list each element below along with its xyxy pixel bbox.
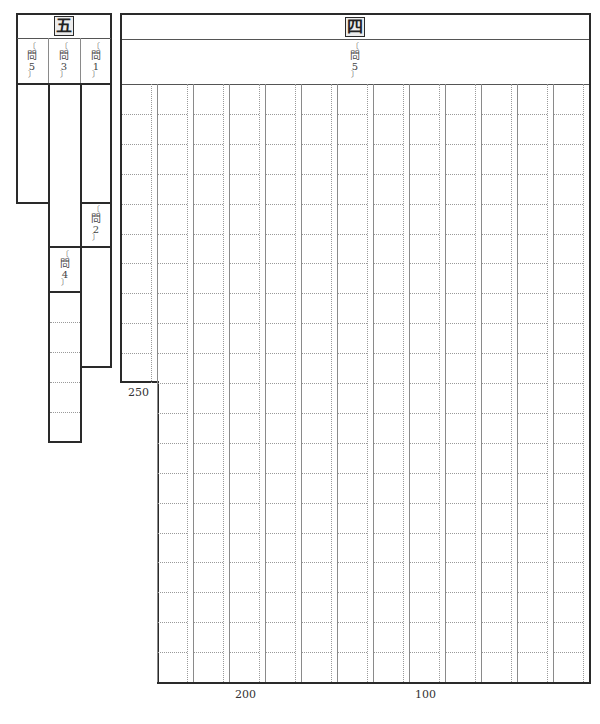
grid-row-line — [554, 293, 583, 294]
grid-row-line — [482, 204, 511, 205]
grid-row-line — [374, 562, 403, 563]
grid-row-line — [446, 562, 475, 563]
grid-row-line — [338, 204, 367, 205]
question-label-q1: 〔 問 1 〕 — [89, 44, 103, 78]
section-5-label-divider — [80, 38, 81, 84]
grid-row-line — [338, 144, 367, 145]
grid-row-line — [230, 353, 259, 354]
grid-row-line — [446, 293, 475, 294]
q4-row-guide — [50, 322, 80, 323]
grid-row-line — [482, 293, 511, 294]
grid-row-line — [374, 293, 403, 294]
grid-row-line — [158, 204, 187, 205]
grid-row-line — [338, 263, 367, 264]
grid-row-line — [482, 144, 511, 145]
grid-row-line — [446, 622, 475, 623]
grid-row-line — [482, 114, 511, 115]
grid-row-line — [554, 533, 583, 534]
grid-row-line — [482, 562, 511, 563]
grid-row-line — [482, 263, 511, 264]
grid-row-line — [518, 443, 547, 444]
grid-row-line — [518, 204, 547, 205]
grid-row-line — [230, 592, 259, 593]
grid-row-line — [230, 293, 259, 294]
grid-ruby-line — [475, 84, 476, 682]
grid-row-line — [230, 114, 259, 115]
grid-row-line — [266, 652, 295, 653]
grid-row-line — [194, 293, 223, 294]
grid-row-line — [482, 592, 511, 593]
grid-row-line — [554, 562, 583, 563]
grid-row-line — [158, 383, 187, 384]
grid-row-line — [482, 503, 511, 504]
grid-row-line — [266, 622, 295, 623]
grid-row-line — [158, 533, 187, 534]
grid-row-line — [266, 293, 295, 294]
grid-row-line — [302, 323, 331, 324]
grid-ruby-line — [583, 84, 584, 682]
grid-row-line — [266, 562, 295, 563]
grid-row-line — [374, 323, 403, 324]
grid-row-line — [194, 562, 223, 563]
grid-row-line — [482, 323, 511, 324]
grid-row-line — [158, 174, 187, 175]
grid-row-line — [122, 144, 151, 145]
answer-box-q3[interactable] — [48, 83, 82, 248]
grid-row-line — [158, 144, 187, 145]
grid-row-line — [158, 562, 187, 563]
grid-row-line — [338, 652, 367, 653]
grid-row-line — [194, 204, 223, 205]
grid-row-line — [446, 263, 475, 264]
grid-row-line — [302, 234, 331, 235]
grid-row-line — [338, 473, 367, 474]
grid-row-line — [482, 234, 511, 235]
grid-row-line — [518, 293, 547, 294]
section-5-header-badge: 五 — [54, 16, 74, 36]
grid-row-line — [194, 473, 223, 474]
grid-row-line — [410, 174, 439, 175]
grid-row-line — [194, 353, 223, 354]
grid-row-line — [410, 323, 439, 324]
grid-row-line — [374, 622, 403, 623]
grid-ruby-line — [187, 84, 188, 682]
grid-row-line — [374, 114, 403, 115]
answer-box-q5[interactable] — [16, 83, 50, 204]
grid-ruby-line — [511, 84, 512, 682]
grid-row-line — [302, 204, 331, 205]
answer-box-q4[interactable] — [48, 291, 82, 443]
grid-row-line — [410, 263, 439, 264]
question-label-q4: 〔 問 4 〕 — [58, 252, 72, 286]
grid-row-line — [230, 323, 259, 324]
answer-box-q1[interactable] — [80, 83, 112, 204]
cell-count-marker-100: 100 — [415, 688, 436, 701]
answer-box-q2[interactable] — [80, 246, 112, 368]
grid-row-line — [374, 144, 403, 145]
grid-row-line — [374, 234, 403, 235]
grid-row-line — [554, 473, 583, 474]
grid-row-line — [194, 503, 223, 504]
grid-row-line — [122, 204, 151, 205]
grid-ruby-line — [367, 84, 368, 682]
grid-row-line — [194, 234, 223, 235]
grid-row-line — [518, 652, 547, 653]
grid-row-line — [338, 592, 367, 593]
grid-row-line — [122, 234, 151, 235]
grid-row-line — [410, 533, 439, 534]
grid-row-line — [302, 383, 331, 384]
grid-row-line — [446, 323, 475, 324]
grid-row-line — [518, 144, 547, 145]
grid-row-line — [194, 652, 223, 653]
grid-row-line — [410, 144, 439, 145]
grid-row-line — [554, 114, 583, 115]
cell-count-marker-250: 250 — [128, 386, 149, 399]
grid-row-line — [446, 353, 475, 354]
grid-row-line — [230, 413, 259, 414]
grid-row-line — [482, 533, 511, 534]
grid-row-line — [554, 204, 583, 205]
grid-ruby-line — [403, 84, 404, 682]
grid-row-line — [302, 592, 331, 593]
grid-row-line — [374, 592, 403, 593]
grid-row-line — [482, 652, 511, 653]
grid-row-line — [338, 353, 367, 354]
grid-ruby-line — [331, 84, 332, 682]
